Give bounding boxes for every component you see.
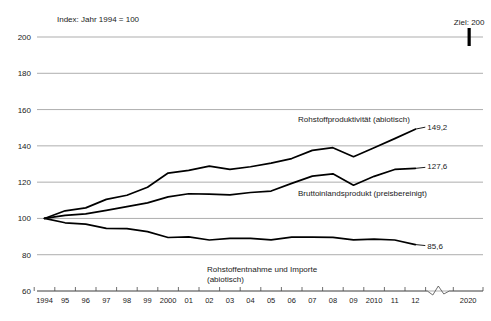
value-label-bruttoinlandsprodukt: 127,6: [427, 162, 448, 171]
x-tick-label-95: 95: [61, 296, 69, 305]
y-tick-label-160: 160: [18, 106, 32, 115]
value-leader-rohstoffentnahme-importe: [415, 245, 425, 246]
x-tick-label-99: 99: [143, 296, 151, 305]
series-line-rohstoffentnahme-importe: [45, 218, 416, 244]
x-tick-label-2010: 2010: [366, 296, 383, 305]
series-label-rohstoffentnahme-importe-line2: (abiotisch): [207, 275, 244, 284]
x-tick-label-05: 05: [267, 296, 275, 305]
index-note-label: Index: Jahr 1994 = 100: [57, 15, 140, 24]
y-tick-label-80: 80: [22, 251, 31, 260]
y-tick-label-60: 60: [22, 287, 31, 296]
x-tick-label-96: 96: [82, 296, 90, 305]
x-tick-label-97: 97: [102, 296, 110, 305]
y-axis-tick-labels: 2001801601401201008060: [18, 33, 32, 296]
series-line-rohstoffproduktivitaet: [45, 129, 416, 218]
x-tick-label-01: 01: [185, 296, 193, 305]
x-tick-label-03: 03: [226, 296, 234, 305]
y-tick-label-200: 200: [18, 33, 32, 42]
series-label-bruttoinlandsprodukt: Bruttoinlandsprodukt (preisbereinigt): [298, 189, 427, 198]
y-tick-label-120: 120: [18, 178, 32, 187]
x-tick-label-98: 98: [123, 296, 131, 305]
y-tick-label-140: 140: [18, 142, 32, 151]
x-tick-label-12: 12: [411, 296, 419, 305]
x-tick-label-2000: 2000: [160, 296, 177, 305]
value-leader-bruttoinlandsprodukt: [415, 167, 425, 168]
target-label: Ziel: 200: [454, 18, 485, 27]
line-chart: 2001801601401201008060 19949596979899200…: [0, 0, 491, 321]
x-tick-label-07: 07: [308, 296, 316, 305]
y-tick-label-100: 100: [18, 214, 32, 223]
value-label-rohstoffentnahme-importe: 85,6: [427, 242, 443, 251]
chart-container: 2001801601401201008060 19949596979899200…: [0, 0, 491, 321]
chart-annotations: Index: Jahr 1994 = 100Ziel: 200Rohstoffp…: [57, 15, 485, 284]
series-label-rohstoffproduktivitaet: Rohstoffproduktivität (abiotisch): [298, 115, 410, 124]
x-tick-label-09: 09: [349, 296, 357, 305]
x-tick-label-1994: 1994: [36, 296, 53, 305]
target-marker-bar: [468, 28, 471, 46]
value-leader-rohstoffproduktivitaet: [415, 127, 425, 129]
x-tick-label-02: 02: [205, 296, 213, 305]
value-label-rohstoffproduktivitaet: 149,2: [427, 123, 448, 132]
x-axis-tick-labels: 1994959697989920000102030405060708092010…: [36, 296, 476, 305]
x-tick-label-08: 08: [329, 296, 337, 305]
x-axis-line-with-break: [37, 286, 483, 295]
y-tick-label-180: 180: [18, 69, 32, 78]
x-tick-label-04: 04: [246, 296, 254, 305]
x-tick-label-06: 06: [288, 296, 296, 305]
data-series: [45, 129, 416, 244]
x-tick-label-2020: 2020: [460, 296, 477, 305]
x-tick-label-11: 11: [391, 296, 399, 305]
gridlines: [37, 37, 483, 291]
x-axis: [34, 286, 483, 295]
series-label-rohstoffentnahme-importe: Rohstoffentnahme und Importe: [207, 265, 318, 274]
